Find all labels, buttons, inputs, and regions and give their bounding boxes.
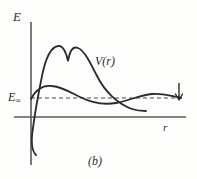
figure-panel: E E∞ V(r) r (b) [0,0,197,179]
energy-level-label: E∞ [8,91,21,105]
energy-level-subscript: ∞ [15,96,20,105]
figure-caption: (b) [88,155,102,167]
y-axis-label: E [13,10,21,23]
potential-curve-label: V(r) [95,55,115,67]
x-axis-label: r [163,122,167,133]
potential-energy-plot [0,0,197,179]
